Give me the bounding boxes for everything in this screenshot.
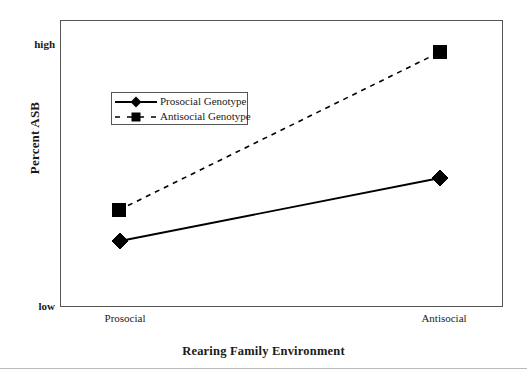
legend-label-prosocial: Prosocial Genotype [160, 96, 246, 107]
y-tick-label-low: low [25, 301, 55, 312]
y-axis-title: Percent ASB [27, 78, 43, 198]
legend-key-prosocial [112, 95, 160, 109]
plot-area-frame [60, 20, 503, 307]
page-bottom-rule [0, 368, 527, 369]
x-axis-title: Rearing Family Environment [0, 344, 527, 359]
figure: high low Percent ASB Prosocial Antisocia… [0, 0, 527, 376]
legend-item-prosocial-genotype: Prosocial Genotype [112, 94, 247, 109]
x-tick-label-prosocial: Prosocial [65, 312, 185, 324]
legend: Prosocial Genotype Antisocial Genotype [111, 92, 248, 125]
legend-item-antisocial-genotype: Antisocial Genotype [112, 109, 247, 124]
legend-key-antisocial [112, 110, 160, 124]
legend-label-antisocial: Antisocial Genotype [160, 111, 251, 122]
x-tick-label-antisocial: Antisocial [384, 312, 504, 324]
y-tick-label-high: high [25, 39, 55, 50]
